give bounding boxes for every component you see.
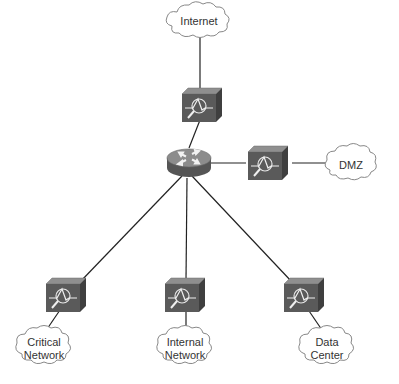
edge-router-ips-internal	[186, 178, 187, 280]
label-internal-line2: Network	[165, 349, 206, 361]
ips-appliance-critical-icon	[46, 278, 86, 312]
cloud-data-center: Data Center	[299, 326, 354, 364]
cloud-internal-network: Internal Network	[157, 326, 212, 364]
cloud-critical-network: Critical Network	[16, 326, 71, 364]
edge-ips-top-router	[189, 120, 200, 148]
label-dmz: DMZ	[339, 159, 363, 171]
label-critical-line1: Critical	[27, 336, 61, 348]
ips-appliance-datacenter-icon	[284, 278, 324, 312]
ips-appliance-dmz-icon	[248, 146, 288, 180]
edge-router-ips-datacenter	[192, 176, 292, 282]
label-internal-line1: Internal	[167, 336, 204, 348]
ips-appliance-top-icon	[182, 88, 222, 122]
cloud-internet: Internet	[166, 2, 229, 38]
router-icon	[167, 149, 211, 177]
label-datacenter-line1: Data	[315, 336, 339, 348]
label-internet: Internet	[180, 15, 217, 27]
network-diagram: Internet DMZ Critical Network	[0, 0, 399, 384]
edge-router-ips-critical	[80, 176, 182, 282]
cloud-dmz: DMZ	[325, 144, 376, 180]
label-datacenter-line2: Center	[310, 349, 343, 361]
label-critical-line2: Network	[24, 349, 65, 361]
ips-appliance-internal-icon	[165, 278, 205, 312]
